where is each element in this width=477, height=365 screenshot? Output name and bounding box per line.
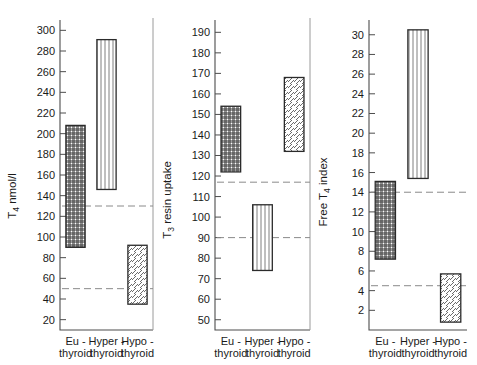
y-tick-label: 100 <box>37 231 55 243</box>
chart-panel-1: 2040608010012014016018020022024026028030… <box>6 18 154 359</box>
category-label: Hypo - <box>434 335 467 347</box>
chart-panel-3: 24681012141618202224262830Eu -thyroidHyp… <box>317 20 467 359</box>
chart-canvas: 2040608010012014016018020022024026028030… <box>0 0 477 365</box>
y-tick-label: 24 <box>352 88 364 100</box>
y-tick-label: 28 <box>352 48 364 60</box>
y-tick-label: 2 <box>358 304 364 316</box>
y-tick-label: 70 <box>198 273 210 285</box>
y-tick-label: 16 <box>352 167 364 179</box>
y-tick-label: 120 <box>37 210 55 222</box>
range-bar <box>408 30 428 179</box>
y-tick-label: 30 <box>352 29 364 41</box>
y-tick-label: 80 <box>198 252 210 264</box>
thyroid-function-figure: 2040608010012014016018020022024026028030… <box>0 0 477 365</box>
y-tick-label: 190 <box>192 26 210 38</box>
y-tick-label: 40 <box>43 293 55 305</box>
y-tick-label: 26 <box>352 68 364 80</box>
range-bar <box>66 125 85 247</box>
y-tick-label: 18 <box>352 147 364 159</box>
category-label: thyroid <box>278 347 311 359</box>
category-label: thyroid <box>90 347 123 359</box>
y-tick-label: 170 <box>192 67 210 79</box>
category-label: Eu - <box>375 335 396 347</box>
category-label: Hypo - <box>278 335 311 347</box>
y-tick-label: 140 <box>37 190 55 202</box>
y-axis-title: Free T4 index <box>317 157 332 226</box>
category-label: Hypo - <box>121 335 154 347</box>
y-tick-label: 160 <box>37 169 55 181</box>
range-bar <box>221 106 241 172</box>
y-tick-label: 6 <box>358 265 364 277</box>
chart-panel-2: 5060708090100110120130140150160170180190… <box>161 18 311 359</box>
category-label: thyroid <box>59 347 92 359</box>
category-label: thyroid <box>246 347 279 359</box>
category-label: Eu - <box>221 335 242 347</box>
y-tick-label: 180 <box>192 47 210 59</box>
category-label: Eu - <box>65 335 86 347</box>
y-tick-label: 20 <box>352 127 364 139</box>
y-tick-label: 10 <box>352 226 364 238</box>
y-tick-label: 12 <box>352 206 364 218</box>
range-bar <box>441 274 461 322</box>
category-label: thyroid <box>369 347 402 359</box>
y-axis-title: T4 nmol/l <box>6 173 21 219</box>
y-tick-label: 150 <box>192 108 210 120</box>
y-tick-label: 180 <box>37 148 55 160</box>
y-tick-label: 220 <box>37 107 55 119</box>
y-tick-label: 8 <box>358 245 364 257</box>
category-label: thyroid <box>401 347 434 359</box>
category-label: thyroid <box>121 347 154 359</box>
y-tick-label: 110 <box>192 191 210 203</box>
y-tick-label: 140 <box>192 129 210 141</box>
category-label: Hyper - <box>244 335 280 347</box>
category-label: thyroid <box>214 347 247 359</box>
range-bar <box>97 40 116 190</box>
y-axis-title: T3 resin uptake <box>161 161 176 239</box>
y-tick-label: 22 <box>352 107 364 119</box>
y-tick-label: 200 <box>37 128 55 140</box>
y-tick-label: 14 <box>352 186 364 198</box>
y-tick-label: 80 <box>43 252 55 264</box>
y-tick-label: 240 <box>37 86 55 98</box>
y-tick-label: 50 <box>198 314 210 326</box>
y-tick-label: 120 <box>192 170 210 182</box>
y-tick-label: 60 <box>198 293 210 305</box>
y-tick-label: 280 <box>37 45 55 57</box>
y-tick-label: 90 <box>198 232 210 244</box>
y-tick-label: 260 <box>37 66 55 78</box>
y-tick-label: 100 <box>192 211 210 223</box>
y-tick-label: 160 <box>192 88 210 100</box>
range-bar <box>253 205 273 271</box>
axis-line <box>215 20 310 330</box>
category-label: thyroid <box>434 347 467 359</box>
y-tick-label: 300 <box>37 24 55 36</box>
y-tick-label: 4 <box>358 285 364 297</box>
range-bar <box>284 77 304 151</box>
range-bar <box>128 245 147 304</box>
category-label: Hyper - <box>88 335 124 347</box>
category-label: Hyper - <box>400 335 436 347</box>
y-tick-label: 20 <box>43 314 55 326</box>
range-bar <box>375 181 395 259</box>
y-tick-label: 130 <box>192 149 210 161</box>
y-tick-label: 60 <box>43 272 55 284</box>
